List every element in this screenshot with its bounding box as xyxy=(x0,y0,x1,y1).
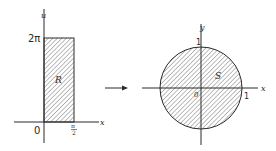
origin-label-right: 0 xyxy=(194,91,199,99)
arrow-head-icon xyxy=(122,86,128,91)
u-axis-label: u xyxy=(41,11,46,20)
x-axis-label-right: x xyxy=(261,84,266,93)
origin-label-left: 0 xyxy=(34,125,40,136)
pi-over-2-denominator: 2 xyxy=(72,129,76,136)
region-s-label: S xyxy=(215,71,221,81)
top-tick-label: 2π xyxy=(28,33,40,44)
x-axis-label-left: x xyxy=(100,118,105,127)
pi-over-2-numerator: π xyxy=(71,122,75,129)
x-tick-label: 1 xyxy=(244,92,249,101)
y-tick-label: 1 xyxy=(196,38,201,47)
right-diagram-region-s: y 1 S 0 1 x xyxy=(142,23,266,145)
mapping-arrow xyxy=(105,86,128,91)
mapping-diagram: u 2π R 0 π 2 x y 1 S 0 1 x xyxy=(0,0,276,151)
left-diagram-region-r: u 2π R 0 π 2 x xyxy=(14,9,105,143)
y-axis-label: y xyxy=(199,23,205,32)
region-r-label: R xyxy=(54,75,62,85)
